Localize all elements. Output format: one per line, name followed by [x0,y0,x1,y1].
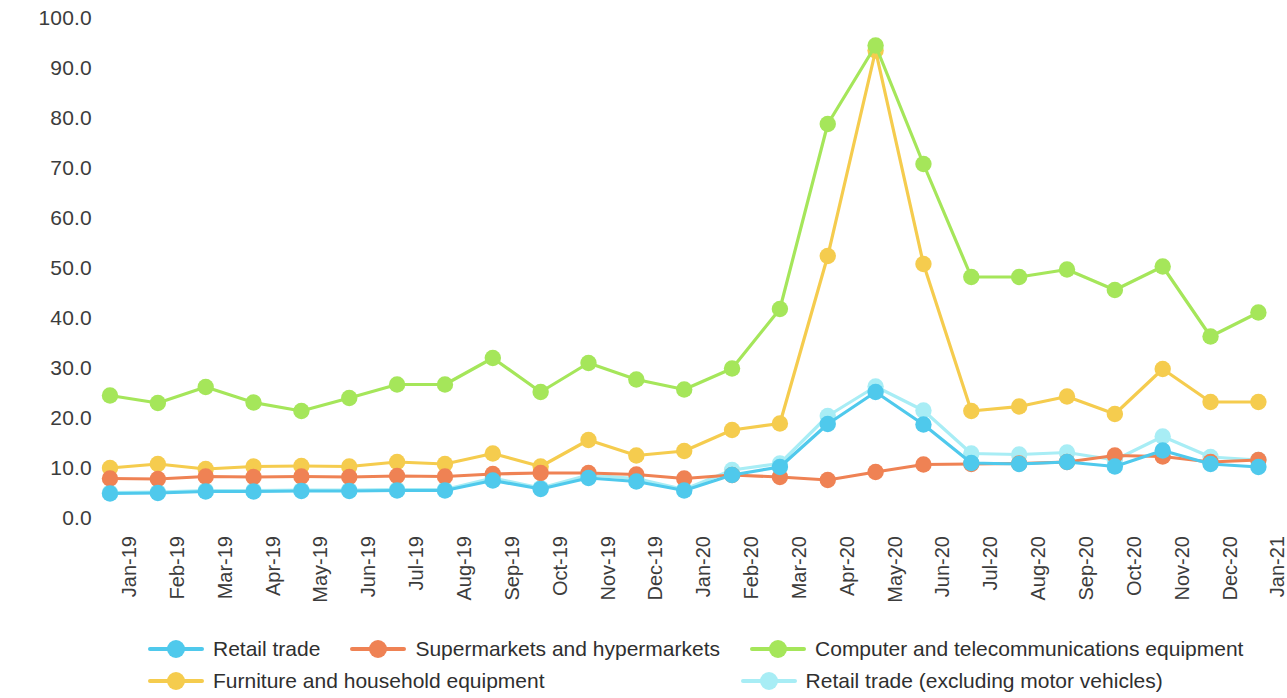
data-point-marker [102,387,118,403]
x-axis-tick-label: May-20 [884,536,907,603]
legend-item[interactable]: Retail trade [148,637,320,661]
data-point-marker [915,156,931,172]
y-axis-tick-label: 20.0 [50,406,92,430]
data-point-marker [1107,406,1123,422]
x-axis: Jan-19Feb-19Mar-19Apr-19May-19Jun-19Jul-… [92,528,1287,633]
y-axis-tick-label: 10.0 [50,456,92,480]
series-2 [102,37,1267,419]
data-point-marker [1155,442,1171,458]
data-point-marker [580,355,596,371]
y-axis: 100.090.080.070.060.050.040.030.020.010.… [0,0,92,540]
data-point-marker [293,468,309,484]
legend-item-label: Computer and telecommunications equipmen… [815,637,1243,661]
line-marker-icon [350,640,406,658]
data-point-marker [1155,361,1171,377]
data-point-marker [580,470,596,486]
x-axis-tick-label: Feb-19 [166,536,189,599]
data-point-marker [485,445,501,461]
data-point-marker [485,350,501,366]
x-axis-tick-label: Jan-20 [692,536,715,597]
data-point-marker [963,403,979,419]
plot-svg [92,0,1287,530]
data-point-marker [628,473,644,489]
x-axis-tick-label: Sep-19 [501,536,524,601]
data-point-marker [532,465,548,481]
data-point-marker [580,432,596,448]
data-point-marker [772,415,788,431]
data-point-marker [1250,394,1266,410]
data-point-marker [1155,258,1171,274]
data-point-marker [437,376,453,392]
legend-row-1: Retail tradeSupermarkets and hypermarket… [0,633,1287,665]
y-axis-tick-label: 100.0 [38,6,92,30]
data-point-marker [676,381,692,397]
data-point-marker [1250,304,1266,320]
legend-item[interactable]: Computer and telecommunications equipmen… [750,637,1243,661]
data-point-marker [867,464,883,480]
data-point-marker [245,394,261,410]
data-point-marker [485,472,501,488]
y-axis-tick-label: 70.0 [50,156,92,180]
x-axis-tick-label: Jun-20 [931,536,954,597]
data-point-marker [963,269,979,285]
legend-row-2: Furniture and household equipmentRetail … [0,665,1287,697]
data-point-marker [1107,282,1123,298]
line-marker-icon [741,672,797,690]
data-point-marker [341,483,357,499]
x-axis-tick-label: Apr-19 [262,536,285,596]
y-axis-tick-label: 80.0 [50,106,92,130]
data-point-marker [341,390,357,406]
x-axis-tick-label: Mar-20 [788,536,811,599]
data-point-marker [724,467,740,483]
series-0 [102,384,1267,502]
data-point-marker [1155,428,1171,444]
data-point-marker [293,483,309,499]
series-3 [102,42,1267,477]
data-point-marker [1107,458,1123,474]
data-point-marker [1059,261,1075,277]
x-axis-tick-label: Aug-20 [1027,536,1050,601]
plot-area [92,0,1287,530]
data-point-marker [150,485,166,501]
x-axis-tick-label: Dec-19 [644,536,667,600]
data-point-marker [915,416,931,432]
data-point-marker [676,443,692,459]
line-chart: 100.090.080.070.060.050.040.030.020.010.… [0,0,1287,698]
data-point-marker [389,482,405,498]
x-axis-tick-label: Jul-20 [979,536,1002,590]
data-point-marker [915,456,931,472]
line-marker-icon [148,672,204,690]
legend-item[interactable]: Supermarkets and hypermarkets [350,637,720,661]
data-point-marker [1011,269,1027,285]
data-point-marker [198,468,214,484]
x-axis-tick-label: Dec-20 [1219,536,1242,600]
legend-item-label: Supermarkets and hypermarkets [415,637,720,661]
x-axis-tick-label: Mar-19 [214,536,237,599]
data-point-marker [389,468,405,484]
x-axis-tick-label: Feb-20 [740,536,763,599]
data-point-marker [341,469,357,485]
legend-item[interactable]: Retail trade (excluding motor vehicles) [741,669,1163,693]
legend-item[interactable]: Furniture and household equipment [148,669,545,693]
x-axis-tick-label: Aug-19 [453,536,476,601]
x-axis-tick-label: Oct-20 [1123,536,1146,596]
data-point-marker [820,472,836,488]
data-point-marker [915,256,931,272]
data-point-marker [150,456,166,472]
data-point-marker [198,483,214,499]
data-point-marker [1059,388,1075,404]
chart-legend: Retail tradeSupermarkets and hypermarket… [0,633,1287,698]
data-point-marker [150,395,166,411]
data-point-marker [245,483,261,499]
data-point-marker [389,454,405,470]
data-point-marker [867,37,883,53]
y-axis-tick-label: 30.0 [50,356,92,380]
line-marker-icon [148,640,204,658]
legend-item-label: Retail trade [213,637,320,661]
y-axis-tick-label: 50.0 [50,256,92,280]
x-axis-tick-label: Jun-19 [357,536,380,597]
x-axis-tick-label: Nov-19 [597,536,620,600]
data-point-marker [1059,454,1075,470]
x-axis-tick-label: Sep-20 [1075,536,1098,601]
data-point-marker [245,469,261,485]
